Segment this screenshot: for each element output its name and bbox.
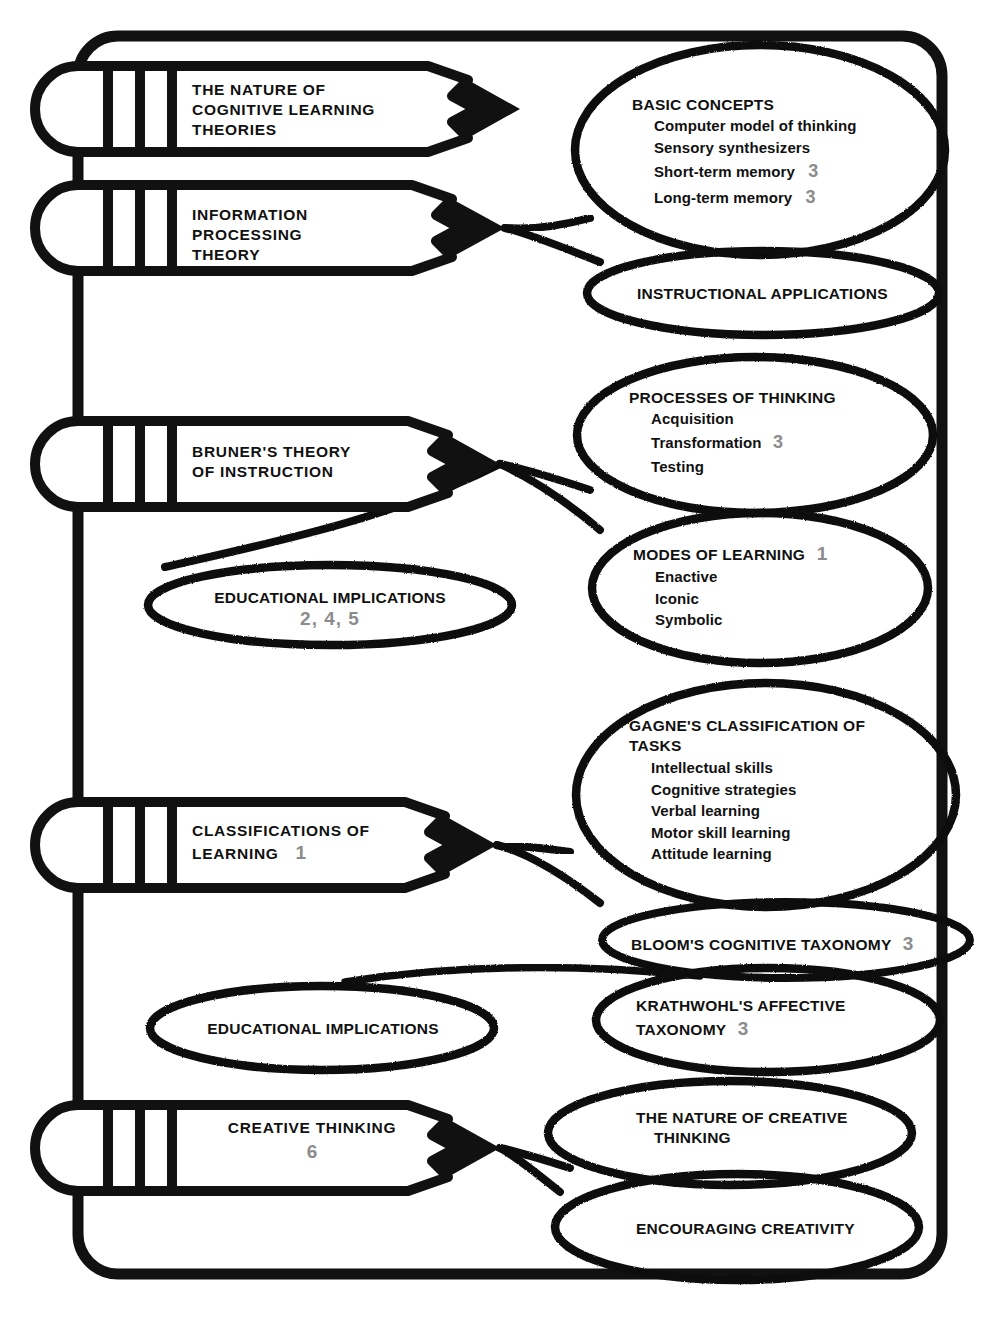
bubble-title-text: MODES OF LEARNING (633, 546, 805, 563)
bubble-item-label: Cognitive strategies (651, 781, 796, 798)
bubble-title-number: 3 (903, 933, 914, 954)
bubble-item-label: Motor skill learning (651, 824, 791, 841)
pencil-label-bruners-theory-of-instruction: BRUNER'S THEORY OF INSTRUCTION (192, 442, 432, 482)
bubble-text-nature-of-creative-thinking: THE NATURE OF CREATIVE THINKING (636, 1108, 936, 1149)
bubble-item: Iconic (633, 588, 933, 610)
bubble-item-label: Intellectual skills (651, 759, 773, 776)
tail-basic-concepts (505, 218, 590, 229)
pencil-label-line: LEARNING 1 (192, 841, 442, 866)
bubble-item: Motor skill learning (629, 822, 949, 844)
bubble-title-text: TAXONOMY (636, 1021, 726, 1038)
bubble-item-label: Testing (651, 458, 704, 475)
bubble-item: Sensory synthesizers (632, 137, 932, 159)
bubble-item-label: Symbolic (655, 611, 723, 628)
pencil-label-line: CREATIVE THINKING (192, 1118, 432, 1138)
bubble-text-krathwohls-affective-taxonomy: KRATHWOHL'S AFFECTIVE TAXONOMY 3 (636, 996, 956, 1042)
pencil-label-nature-of-cognitive-learning-theories: THE NATURE OF COGNITIVE LEARNING THEORIE… (192, 80, 442, 140)
pencil-chapter-number: 6 (192, 1140, 432, 1165)
pencil-label-line: PROCESSING (192, 225, 422, 245)
bubble-item-label: Attitude learning (651, 845, 772, 862)
bubble-text-processes-of-thinking: PROCESSES OF THINKING Acquisition Transf… (629, 388, 929, 478)
pencil-label-line: OF INSTRUCTION (192, 462, 432, 482)
bubble-item-label: Long-term memory (654, 189, 792, 206)
bubble-title: BASIC CONCEPTS (632, 95, 932, 115)
bubble-item: Computer model of thinking (632, 115, 932, 137)
bubble-item: Intellectual skills (629, 757, 949, 779)
pencil-label-line: THE NATURE OF (192, 80, 442, 100)
pencil-label-line: COGNITIVE LEARNING (192, 100, 442, 120)
bubble-title-number: 1 (817, 543, 828, 564)
bubble-item-label: Computer model of thinking (654, 117, 857, 134)
bubble-title: GAGNE'S CLASSIFICATION OF (629, 716, 949, 736)
bubble-item-number: 3 (806, 187, 816, 207)
bubble-item-number: 3 (773, 432, 783, 452)
pencil-chapter-number: 1 (296, 842, 307, 863)
pencil-label-line: THEORIES (192, 120, 442, 140)
bubble-text-educational-implications-bruner: EDUCATIONAL IMPLICATIONS 2, 4, 5 (170, 588, 490, 630)
bubble-item-label: Verbal learning (651, 802, 760, 819)
bubble-item: Transformation 3 (629, 430, 929, 456)
bubble-item-label: Transformation (651, 434, 762, 451)
pencil-label-creative-thinking: CREATIVE THINKING 6 (192, 1118, 432, 1165)
bubble-item: Enactive (633, 566, 933, 588)
bubble-text-blooms-cognitive-taxonomy: BLOOM'S COGNITIVE TAXONOMY 3 (631, 931, 971, 956)
pencil-label-line: BRUNER'S THEORY (192, 442, 432, 462)
pencil-label-line: THEORY (192, 245, 422, 265)
bubble-title-cont: TASKS (629, 736, 949, 756)
bubble-title: EDUCATIONAL IMPLICATIONS (207, 1020, 439, 1037)
bubble-text-instructional-applications: INSTRUCTIONAL APPLICATIONS (637, 284, 957, 304)
tail-blooms-cognitive-taxonomy (497, 845, 600, 903)
bubble-item-label: Enactive (655, 568, 718, 585)
bubble-chapter-numbers: 2, 4, 5 (170, 608, 490, 630)
bubble-item: Short-term memory 3 (632, 159, 932, 185)
bubble-title: THE NATURE OF CREATIVE (636, 1108, 936, 1128)
bubble-text-educational-implications-classifications: EDUCATIONAL IMPLICATIONS (168, 1019, 478, 1039)
bubble-text-gagnes-classification: GAGNE'S CLASSIFICATION OF TASKS Intellec… (629, 716, 949, 865)
bubble-item: Testing (629, 456, 929, 478)
bubble-title-number: 3 (738, 1018, 749, 1039)
pencil-label-line: INFORMATION (192, 205, 422, 225)
bubble-title: MODES OF LEARNING 1 (633, 541, 933, 566)
bubble-title: KRATHWOHL'S AFFECTIVE (636, 996, 956, 1016)
bubble-item-label: Acquisition (651, 410, 734, 427)
bubble-title-cont: TAXONOMY 3 (636, 1016, 956, 1041)
bubble-title-cont: THINKING (636, 1128, 936, 1148)
bubble-item-label: Short-term memory (654, 163, 795, 180)
bubble-title: BLOOM'S COGNITIVE TAXONOMY (631, 936, 891, 953)
chapter-organizer-diagram: THE NATURE OF COGNITIVE LEARNING THEORIE… (0, 0, 998, 1319)
bubble-item: Attitude learning (629, 843, 949, 865)
bubble-item: Symbolic (633, 609, 933, 631)
bubble-text-modes-of-learning: MODES OF LEARNING 1 Enactive Iconic Symb… (633, 541, 933, 631)
bubble-item-label: Sensory synthesizers (654, 139, 810, 156)
bubble-title: INSTRUCTIONAL APPLICATIONS (637, 285, 888, 302)
pencil-label-information-processing-theory: INFORMATION PROCESSING THEORY (192, 205, 422, 265)
bubble-text-encouraging-creativity: ENCOURAGING CREATIVITY (636, 1219, 956, 1239)
pencil-label-text: LEARNING (192, 845, 279, 862)
tail-instructional-applications (505, 228, 600, 262)
bubble-title: PROCESSES OF THINKING (629, 388, 929, 408)
bubble-item-label: Iconic (655, 590, 699, 607)
bubble-item: Cognitive strategies (629, 779, 949, 801)
bubble-title: ENCOURAGING CREATIVITY (636, 1220, 855, 1237)
bubble-item: Long-term memory 3 (632, 185, 932, 211)
bubble-title: EDUCATIONAL IMPLICATIONS (170, 588, 490, 608)
bubble-item-number: 3 (808, 161, 818, 181)
pencil-label-line: CLASSIFICATIONS OF (192, 821, 442, 841)
bubble-item: Verbal learning (629, 800, 949, 822)
pencil-label-classifications-of-learning: CLASSIFICATIONS OF LEARNING 1 (192, 821, 442, 866)
bubble-text-basic-concepts: BASIC CONCEPTS Computer model of thinkin… (632, 95, 932, 210)
bubble-item: Acquisition (629, 408, 929, 430)
